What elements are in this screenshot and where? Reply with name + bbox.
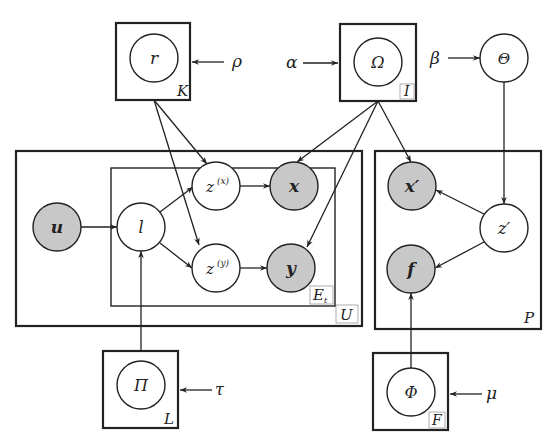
edge-zprime-xprime (436, 190, 484, 214)
node-y: y (267, 244, 315, 292)
hyper-rho: ρ (231, 51, 242, 71)
hyper-mu: μ (486, 383, 497, 403)
node-x-prime: x′ (388, 162, 436, 210)
edge-i-x (297, 101, 378, 162)
node-x: x (270, 162, 318, 210)
node-r: r (130, 34, 178, 82)
plate-u-label: U (340, 306, 354, 324)
node-z-prime: z′ (480, 204, 528, 252)
node-phi: Φ (387, 368, 435, 416)
node-omega: Ω (354, 38, 402, 86)
node-z-y: z (y) (192, 244, 240, 292)
node-u: u (33, 203, 81, 251)
hyper-alpha: α (286, 52, 298, 72)
svg-text:z: z (205, 178, 214, 196)
edge-k-zx (154, 100, 207, 164)
edge-l-zy (160, 243, 192, 268)
graphical-model-diagram: K I U Et P L F (0, 0, 557, 444)
svg-text:(x): (x) (217, 176, 230, 186)
hyper-tau: τ (215, 380, 225, 399)
svg-text:l: l (138, 218, 143, 237)
node-z-x: z (x) (192, 162, 240, 210)
node-l: l (117, 203, 165, 251)
svg-text:u: u (51, 217, 63, 237)
svg-text:(y): (y) (217, 258, 230, 268)
plate-f-label: F (431, 412, 443, 428)
edge-zprime-f (435, 242, 484, 268)
svg-text:Θ: Θ (498, 50, 510, 68)
node-theta: Θ (480, 34, 528, 82)
edge-i-xprime (378, 101, 411, 162)
plate-i-label: I (403, 83, 410, 99)
plate-l-label: L (163, 410, 174, 428)
svg-text:z′: z′ (497, 219, 510, 238)
svg-text:Φ: Φ (404, 383, 417, 402)
plate-k-label: K (176, 82, 189, 100)
edge-i-y (307, 101, 378, 247)
hyper-beta: β (429, 48, 440, 68)
svg-text:x′: x′ (404, 176, 420, 196)
node-pi: Π (117, 361, 165, 409)
svg-text:Ω: Ω (370, 53, 384, 72)
svg-text:r: r (150, 48, 159, 68)
plate-p-label: P (523, 309, 535, 327)
svg-text:y: y (285, 258, 297, 278)
node-f: f (387, 245, 435, 293)
svg-text:z: z (205, 260, 214, 278)
svg-text:Π: Π (133, 376, 149, 395)
plate-e-label: Et (312, 286, 328, 305)
svg-text:x: x (288, 176, 300, 196)
